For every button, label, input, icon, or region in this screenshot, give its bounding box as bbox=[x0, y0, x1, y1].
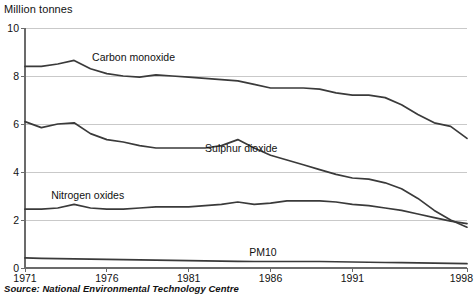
x-tick-label-1986: 1986 bbox=[259, 272, 282, 284]
x-tick-label-1991: 1991 bbox=[341, 272, 364, 284]
y-tick-label-6: 6 bbox=[1, 118, 19, 130]
series-label-nitrogen-oxides: Nitrogen oxides bbox=[51, 189, 124, 201]
y-tick-label-8: 8 bbox=[1, 70, 19, 82]
y-tick-label-10: 10 bbox=[1, 22, 19, 34]
series-line-sulphur-dioxide bbox=[25, 122, 467, 228]
emissions-line-chart: Million tonnes 0246810 19711976198119861… bbox=[0, 0, 476, 297]
series-line-carbon-monoxide bbox=[25, 60, 467, 138]
y-tick-label-2: 2 bbox=[1, 214, 19, 226]
x-tick-label-1998: 1998 bbox=[450, 272, 473, 284]
source-note: Source: National Environmental Technolog… bbox=[4, 283, 239, 294]
y-tick-label-4: 4 bbox=[1, 166, 19, 178]
series-line-pm10 bbox=[25, 258, 467, 264]
series-label-sulphur-dioxide: Sulphur dioxide bbox=[205, 142, 277, 154]
series-label-pm10: PM10 bbox=[249, 246, 276, 258]
series-label-carbon-monoxide: Carbon monoxide bbox=[92, 51, 175, 63]
